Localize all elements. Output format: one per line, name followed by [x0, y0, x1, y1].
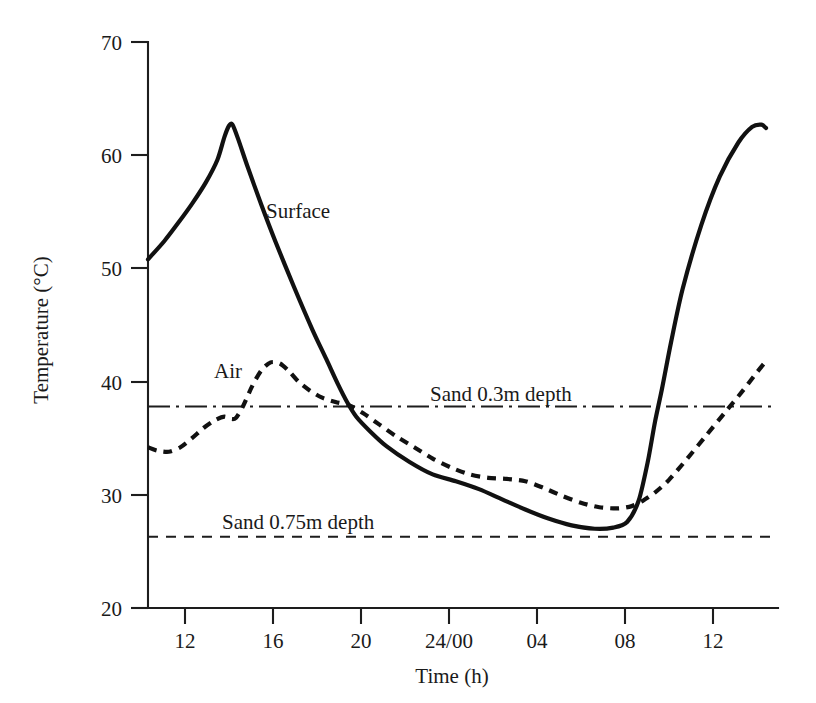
sand-0-75m-label: Sand 0.75m depth [222, 510, 375, 534]
y-ticks-group [131, 42, 148, 608]
surface-series-label: Surface [266, 199, 330, 223]
x-tick-label-16: 16 [263, 629, 284, 653]
x-ticks-group [185, 608, 713, 624]
temperature-time-chart: 70 60 50 40 30 20 12 16 20 24/00 04 08 1… [0, 0, 816, 703]
y-tick-label-50: 50 [101, 257, 122, 281]
x-tick-label-08: 08 [615, 629, 636, 653]
x-tick-label-12a: 12 [175, 629, 196, 653]
chart-svg: 70 60 50 40 30 20 12 16 20 24/00 04 08 1… [0, 0, 816, 703]
series-group [148, 124, 766, 529]
y-tick-label-30: 30 [101, 484, 122, 508]
x-tick-label-2400: 24/00 [425, 629, 473, 653]
x-tick-label-20: 20 [351, 629, 372, 653]
y-tick-label-70: 70 [101, 31, 122, 55]
air-series-label: Air [214, 359, 242, 383]
y-tick-label-20: 20 [101, 597, 122, 621]
x-axis-title: Time (h) [415, 664, 488, 688]
sand-0-3m-label: Sand 0.3m depth [430, 382, 572, 406]
y-axis-title: Temperature (°C) [29, 256, 53, 403]
y-tick-label-40: 40 [101, 371, 122, 395]
y-tick-label-60: 60 [101, 144, 122, 168]
x-tick-label-12b: 12 [703, 629, 724, 653]
y-tick-labels-group: 70 60 50 40 30 20 [101, 31, 122, 621]
x-tick-label-04: 04 [527, 629, 549, 653]
x-tick-labels-group: 12 16 20 24/00 04 08 12 [175, 629, 724, 653]
